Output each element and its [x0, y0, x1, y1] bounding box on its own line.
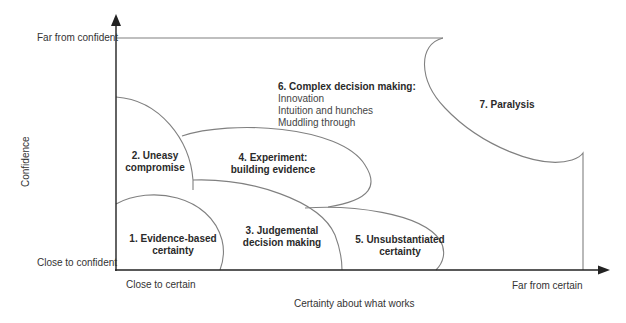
region-complex-decision-making: 6. Complex decision making: Innovation I…: [278, 81, 416, 129]
region-1-line1: 1. Evidence-based: [123, 233, 223, 245]
region-evidence-based-certainty: 1. Evidence-based certainty: [123, 233, 223, 257]
region-6-item-muddling: Muddling through: [278, 117, 416, 129]
region-4-line1: 4. Experiment:: [218, 152, 328, 164]
y-axis-arrow-icon: [111, 14, 121, 26]
region-4-line2: building evidence: [218, 164, 328, 176]
region-5-line1: 5. Unsubstantiated: [345, 234, 455, 246]
region-2-line2: compromise: [120, 162, 190, 174]
y-top-label: Far from confident: [37, 32, 118, 43]
region-6-title: 6. Complex decision making:: [278, 81, 416, 93]
uneasy-compromise-boundary: [116, 97, 193, 190]
y-bottom-label: Close to confident: [37, 257, 117, 268]
region-6-item-innovation: Innovation: [278, 93, 416, 105]
region-uneasy-compromise: 2. Uneasy compromise: [120, 150, 190, 174]
x-axis-title: Certainty about what works: [294, 298, 415, 309]
region-unsubstantiated-certainty: 5. Unsubstantiated certainty: [345, 234, 455, 258]
y-axis-title: Confidence: [20, 136, 31, 187]
region-3-line2: decision making: [232, 237, 332, 249]
region-paralysis: 7. Paralysis: [472, 99, 542, 111]
region-3-line1: 3. Judgemental: [232, 225, 332, 237]
x-axis-arrow-icon: [598, 266, 610, 275]
region-5-line2: certainty: [345, 246, 455, 258]
region-judgemental-decision-making: 3. Judgemental decision making: [232, 225, 332, 249]
region-1-line2: certainty: [123, 245, 223, 257]
x-right-label: Far from certain: [512, 280, 583, 291]
region-6-item-intuition: Intuition and hunches: [278, 105, 416, 117]
x-left-label: Close to certain: [126, 279, 195, 290]
region-7-line1: 7. Paralysis: [472, 99, 542, 111]
region-experiment-building-evidence: 4. Experiment: building evidence: [218, 152, 328, 176]
region-2-line1: 2. Uneasy: [120, 150, 190, 162]
